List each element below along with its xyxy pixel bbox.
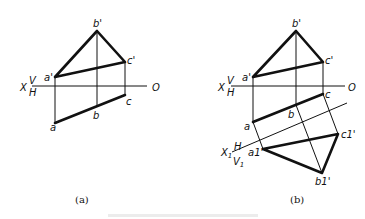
- h-plane-label: H: [29, 87, 37, 98]
- label-a-prime: a': [242, 72, 251, 83]
- x-axis-label: X: [19, 82, 28, 93]
- label-b-prime: b': [292, 18, 301, 29]
- projection-diagram: X V H O b' c' a' c b a (a) X V H O: [0, 0, 365, 219]
- h-plane-label-aux: H: [234, 141, 242, 152]
- front-view-triangle: [55, 31, 125, 77]
- v-plane-label: V: [227, 75, 235, 86]
- label-a-prime: a': [44, 72, 53, 83]
- label-b: b: [93, 110, 99, 121]
- caption-a: (a): [75, 194, 89, 205]
- label-a: a: [50, 122, 56, 133]
- auxiliary-view-triangle: [263, 134, 338, 173]
- h-plane-label: H: [227, 87, 235, 98]
- label-c1-prime: c1': [341, 129, 356, 140]
- x1-axis-label: X1: [220, 147, 232, 160]
- v-plane-label: V: [29, 75, 37, 86]
- label-c-prime: c': [325, 55, 333, 66]
- figure-b: X V H O b' c' a' c b a X1 H V1 a1' c1' b…: [217, 18, 356, 205]
- label-c: c: [126, 96, 132, 107]
- o-axis-label: O: [152, 82, 160, 93]
- front-view-triangle: [253, 31, 323, 77]
- faint-footer-caption: [108, 214, 258, 217]
- top-view-line: [55, 95, 125, 123]
- label-b: b: [288, 109, 294, 120]
- aux-projection-line-c: [323, 94, 338, 134]
- o-axis-label: O: [348, 82, 356, 93]
- v1-plane-label: V1: [233, 156, 244, 169]
- x-axis-label: X: [217, 82, 226, 93]
- label-c-prime: c': [127, 55, 135, 66]
- aux-projection-line-a: [253, 122, 263, 149]
- figure-a: X V H O b' c' a' c b a (a): [19, 18, 160, 205]
- label-a1-prime: a1': [248, 147, 263, 158]
- caption-b: (b): [290, 194, 304, 205]
- label-b-prime: b': [93, 18, 102, 29]
- label-a: a: [244, 121, 250, 132]
- label-c: c: [325, 89, 331, 100]
- label-b1-prime: b1': [315, 176, 330, 187]
